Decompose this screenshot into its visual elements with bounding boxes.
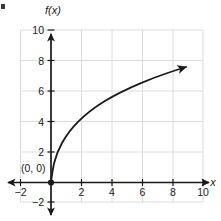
y-axis-label: f(x) <box>45 4 61 16</box>
y-tick-label-2: 2 <box>38 146 44 158</box>
x-tick-label-8: 8 <box>170 186 176 198</box>
y-tick-label-4: 4 <box>38 116 44 128</box>
y-tick-label-10: 10 <box>32 24 44 36</box>
x-tick-label-2: 2 <box>79 186 85 198</box>
x-tick-label-4: 4 <box>109 186 115 198</box>
x-axis-label: x <box>209 176 216 188</box>
grid-lines <box>21 30 204 202</box>
x-tick-label-10: 10 <box>197 186 209 198</box>
graph-figure: −2 2 4 6 8 10 10 8 6 4 2 −2 f(x) x (0, 0… <box>0 0 221 221</box>
function-curve <box>51 67 186 183</box>
function-graph-svg: −2 2 4 6 8 10 10 8 6 4 2 −2 f(x) x (0, 0… <box>0 0 221 221</box>
x-tick-label-6: 6 <box>140 186 146 198</box>
corner-bullet-icon <box>1 4 5 9</box>
origin-point-label: (0, 0) <box>21 162 46 174</box>
y-tick-label-6: 6 <box>38 85 44 97</box>
x-tick-label--2: −2 <box>15 186 27 198</box>
y-tick-label--2: −2 <box>32 196 44 208</box>
y-tick-label-8: 8 <box>38 55 44 67</box>
origin-point-marker <box>48 179 54 185</box>
